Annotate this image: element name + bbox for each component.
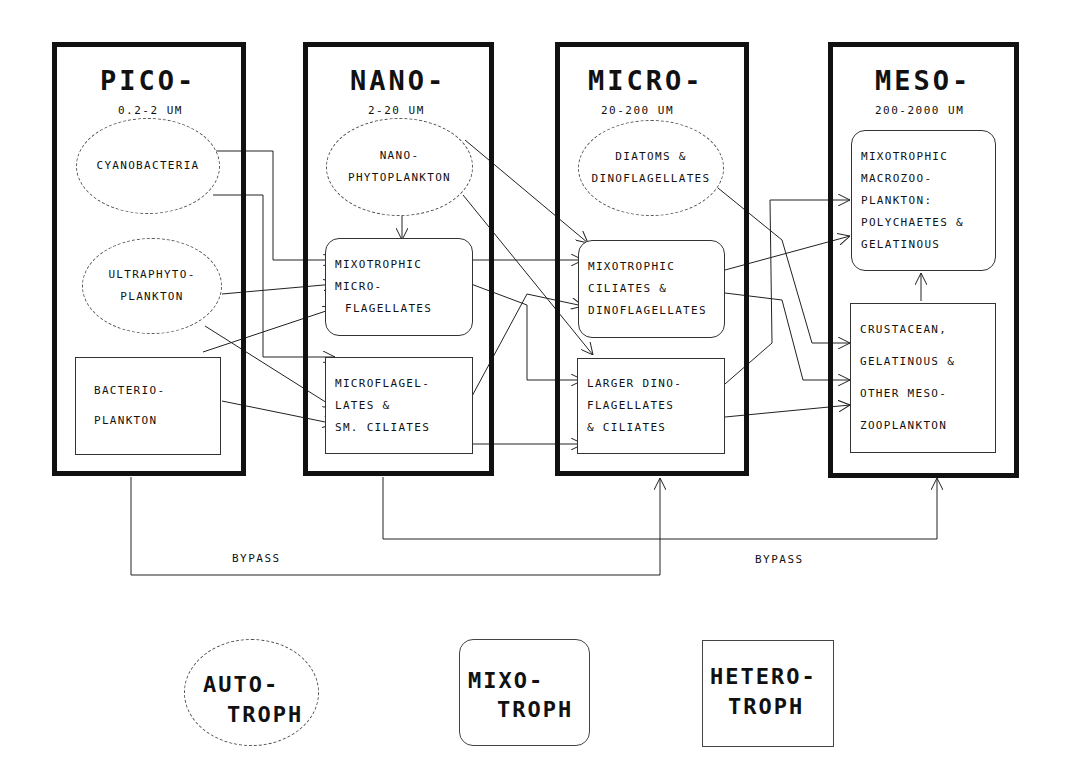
column-title: NANO- — [350, 65, 446, 96]
node-mixotrophic-macrozooplankton: MIXOTROPHIC MACROZOO- PLANKTON: POLYCHAE… — [851, 130, 996, 271]
node-microflagellates-sm-ciliates: MICROFLAGEL- LATES & SM. CILIATES — [325, 357, 473, 454]
column-size-range: 0.2-2 UM — [118, 104, 183, 117]
node-cyanobacteria: CYANOBACTERIA — [76, 118, 220, 214]
node-diatoms-dinoflagellates: DIATOMS & DINOFLAGELLATES — [578, 120, 724, 216]
legend-mixotroph: MIXO- TROPH — [459, 639, 590, 746]
node-mixotrophic-microflagellates: MIXOTROPHIC MICRO- FLAGELLATES — [325, 238, 473, 336]
column-size-range: 2-20 UM — [368, 104, 425, 117]
node-larger-dinoflagellates-ciliates: LARGER DINO- FLAGELLATES & CILIATES — [577, 358, 725, 454]
column-size-range: 200-2000 UM — [875, 104, 964, 117]
plankton-food-web-diagram: PICO- 0.2-2 UM NANO- 2-20 UM MICRO- 20-2… — [0, 0, 1072, 784]
node-mixotrophic-ciliates-dinoflagellates: MIXOTROPHIC CILIATES & DINOFLAGELLATES — [578, 240, 725, 338]
node-bacterioplankton: BACTERIO- PLANKTON — [75, 357, 221, 455]
legend-autotroph: AUTO- TROPH — [184, 639, 319, 746]
node-crustacean-mesozooplankton: CRUSTACEAN, GELATINOUS & OTHER MESO- ZOO… — [850, 303, 996, 453]
node-nanophytoplankton: NANO- PHYTOPLANKTON — [326, 118, 473, 216]
bypass-label-nano-meso: BYPASS — [755, 553, 804, 566]
column-title: MESO- — [875, 65, 971, 96]
column-size-range: 20-200 UM — [601, 104, 674, 117]
column-title: PICO- — [100, 65, 196, 96]
column-title: MICRO- — [588, 65, 704, 96]
legend-heterotroph: HETERO- TROPH — [702, 640, 834, 747]
bypass-label-pico-micro: BYPASS — [232, 552, 281, 565]
node-ultraphytoplankton: ULTRAPHYTO- PLANKTON — [82, 238, 222, 334]
